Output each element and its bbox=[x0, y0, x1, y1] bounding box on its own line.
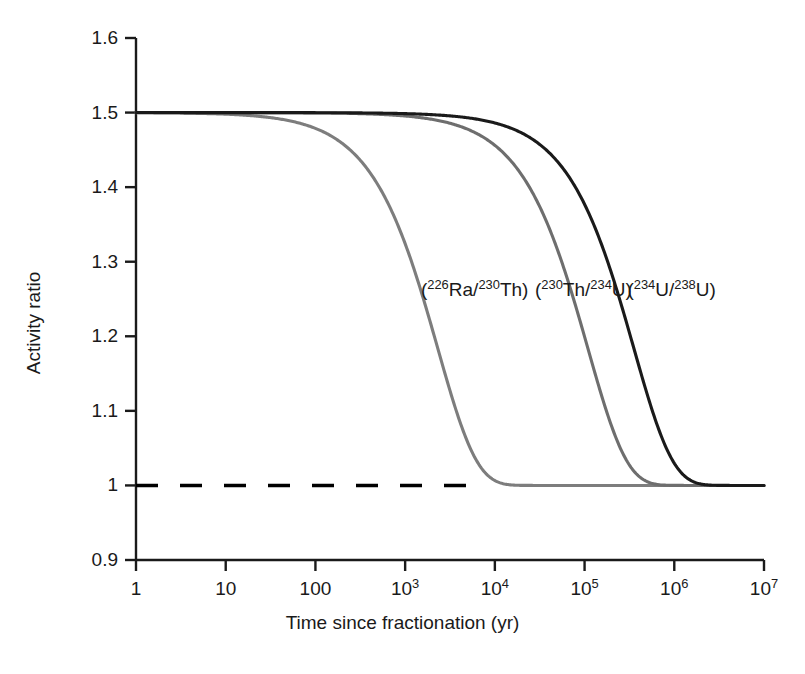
activity-ratio-chart: 0.911.11.21.31.41.51.6110100103104105106… bbox=[0, 0, 805, 674]
curve-label-0: (226Ra/230Th) bbox=[421, 279, 529, 301]
y-tick-label: 1.5 bbox=[92, 102, 118, 124]
y-tick-label: 1.3 bbox=[92, 251, 118, 273]
x-tick-label: 104 bbox=[481, 578, 509, 600]
y-tick-label: 0.9 bbox=[92, 549, 118, 571]
x-tick-label: 100 bbox=[300, 578, 332, 600]
curve-label-2: (234U/238U) bbox=[627, 279, 715, 301]
x-axis-title: Time since fractionation (yr) bbox=[0, 612, 805, 634]
y-tick-label: 1 bbox=[107, 474, 118, 496]
curve-label-1: (230Th/234U) bbox=[535, 279, 632, 301]
x-axis-ticks bbox=[136, 560, 764, 571]
y-tick-label: 1.4 bbox=[92, 176, 118, 198]
x-tick-label: 105 bbox=[570, 578, 598, 600]
x-tick-label: 10 bbox=[215, 578, 236, 600]
x-tick-label: 103 bbox=[391, 578, 419, 600]
y-tick-label: 1.2 bbox=[92, 325, 118, 347]
y-axis-ticks bbox=[125, 38, 136, 560]
plot-canvas bbox=[0, 0, 805, 674]
y-axis-title: Activity ratio bbox=[23, 233, 45, 413]
x-tick-label: 106 bbox=[660, 578, 688, 600]
y-tick-label: 1.6 bbox=[92, 27, 118, 49]
x-tick-label: 1 bbox=[131, 578, 142, 600]
x-tick-label: 107 bbox=[750, 578, 778, 600]
y-tick-label: 1.1 bbox=[92, 400, 118, 422]
